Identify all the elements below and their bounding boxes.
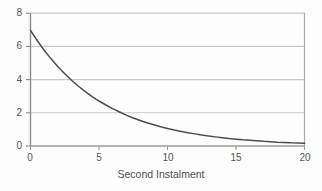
x-tick-label-0: 0	[18, 153, 42, 163]
y-tick-label-2: 2	[6, 108, 22, 118]
x-tick-label-5: 5	[87, 153, 111, 163]
gridlines	[30, 13, 305, 113]
y-tick-label-6: 6	[6, 41, 22, 51]
x-tick-label-20: 20	[293, 153, 317, 163]
x-tick-label-10: 10	[156, 153, 180, 163]
y-tick-label-4: 4	[6, 75, 22, 85]
x-tick-label-15: 15	[224, 153, 248, 163]
data-series-line	[31, 30, 305, 143]
y-tick-label-8: 8	[6, 8, 22, 18]
x-axis-title: Second Instalment	[0, 168, 322, 180]
y-tick-label-0: 0	[6, 141, 22, 151]
chart-figure: 8 6 4 2 0 0 5 10 15 20 Second Instalment	[0, 0, 322, 191]
y-tick-marks	[26, 13, 30, 146]
